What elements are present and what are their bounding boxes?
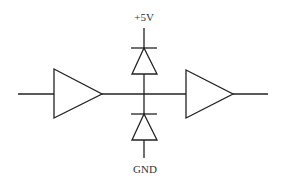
bottom-diode-icon [131,114,157,140]
supply-label: +5V [134,12,154,23]
buffer-1-icon [54,69,102,118]
ground-label: GND [133,164,157,175]
buffer-2-icon [186,70,233,118]
top-diode-icon [131,48,157,74]
circuit-diagram: +5V GND [0,0,282,183]
schematic-drawing [0,0,282,183]
